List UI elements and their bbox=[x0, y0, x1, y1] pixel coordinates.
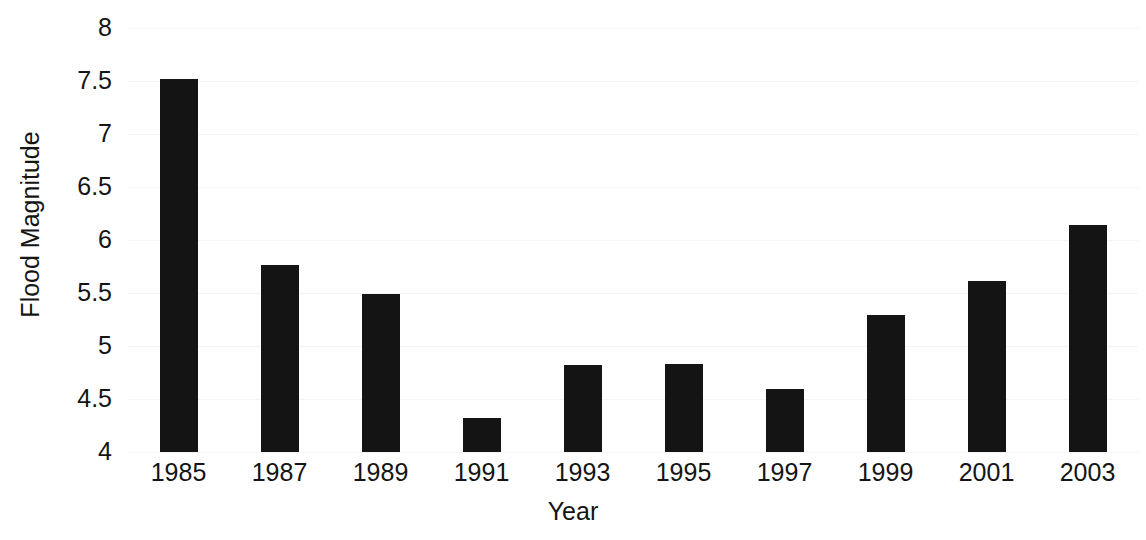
bar-slot bbox=[835, 28, 936, 452]
y-axis-title: Flood Magnitude bbox=[16, 45, 45, 405]
y-axis-tick-labels: 44.555.566.577.58 bbox=[50, 0, 112, 540]
y-tick-label: 5 bbox=[50, 333, 112, 358]
bar[interactable] bbox=[1069, 225, 1107, 452]
x-tick-label: 2003 bbox=[1060, 458, 1116, 487]
plot-area bbox=[128, 28, 1138, 452]
x-tick-label: 2001 bbox=[959, 458, 1015, 487]
bar-slot bbox=[128, 28, 229, 452]
bar-slot bbox=[936, 28, 1037, 452]
bar[interactable] bbox=[261, 265, 299, 452]
x-tick-label: 1987 bbox=[252, 458, 308, 487]
y-tick-label: 5.5 bbox=[50, 280, 112, 305]
y-tick-label: 7.5 bbox=[50, 68, 112, 93]
y-tick-label: 6.5 bbox=[50, 174, 112, 199]
x-tick-label: 1999 bbox=[858, 458, 914, 487]
x-tick-label: 1989 bbox=[353, 458, 409, 487]
bar[interactable] bbox=[564, 365, 602, 452]
x-tick-label: 1991 bbox=[454, 458, 510, 487]
bar[interactable] bbox=[766, 389, 804, 452]
bar-slot bbox=[229, 28, 330, 452]
bar-slot bbox=[633, 28, 734, 452]
x-axis-title: Year bbox=[0, 497, 1146, 526]
x-tick-label: 1993 bbox=[555, 458, 611, 487]
x-tick-label: 1995 bbox=[656, 458, 712, 487]
y-tick-label: 7 bbox=[50, 121, 112, 146]
gridline bbox=[128, 452, 1138, 453]
bar[interactable] bbox=[665, 364, 703, 452]
y-tick-label: 4.5 bbox=[50, 386, 112, 411]
bar[interactable] bbox=[867, 315, 905, 452]
bar-slot bbox=[1037, 28, 1138, 452]
x-tick-label: 1997 bbox=[757, 458, 813, 487]
x-axis-tick-labels: 1985198719891991199319951997199920012003 bbox=[128, 458, 1138, 492]
bar[interactable] bbox=[362, 294, 400, 452]
bar[interactable] bbox=[968, 281, 1006, 452]
bar[interactable] bbox=[160, 79, 198, 452]
x-tick-label: 1985 bbox=[151, 458, 207, 487]
bar-slot bbox=[431, 28, 532, 452]
bar-slot bbox=[532, 28, 633, 452]
bar-slot bbox=[330, 28, 431, 452]
bar-slot bbox=[734, 28, 835, 452]
y-tick-label: 4 bbox=[50, 439, 112, 464]
y-tick-label: 8 bbox=[50, 15, 112, 40]
bar-chart-figure: Flood Magnitude 44.555.566.577.58 198519… bbox=[0, 0, 1146, 540]
bar[interactable] bbox=[463, 418, 501, 452]
y-tick-label: 6 bbox=[50, 227, 112, 252]
